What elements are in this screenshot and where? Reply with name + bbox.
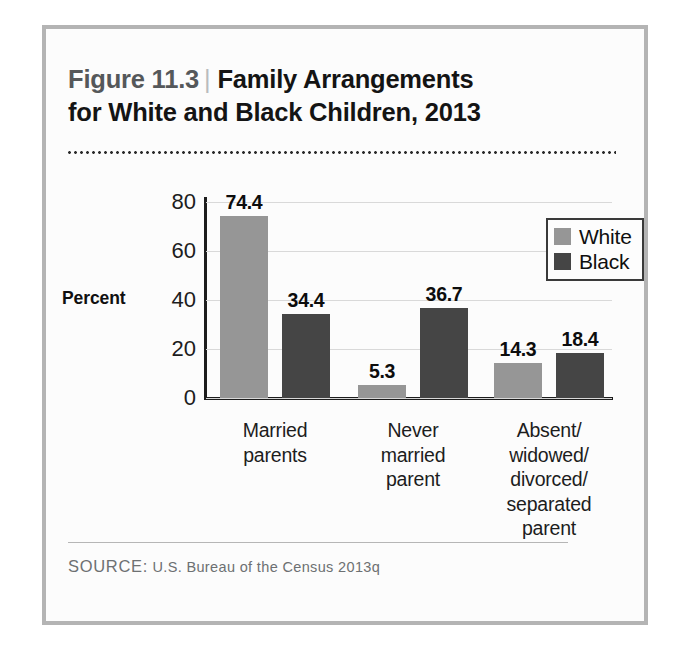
ytick-label-80: 80: [172, 191, 196, 213]
title-dotted-rule: [68, 151, 616, 154]
bar-never-white: 5.3: [358, 385, 406, 398]
legend-swatch-white-icon: [554, 228, 571, 245]
category-label-married: Married parents: [200, 418, 350, 467]
legend-label-black: Black: [579, 251, 629, 272]
source-divider: [68, 542, 568, 543]
ytick-label-40: 40: [172, 289, 196, 311]
ytick-label-20: 20: [172, 338, 196, 360]
y-axis-title: Percent: [62, 288, 126, 309]
category-absent-line-1: Absent/: [474, 418, 624, 443]
source-label: SOURCE:: [68, 557, 148, 575]
gridline-80: 80: [206, 202, 612, 203]
plot-area: 0 20 40 60 80 74.4 34.4 5.3: [206, 202, 612, 398]
category-married-line-1: Married: [200, 418, 350, 443]
bar-label-never-white: 5.3: [369, 360, 395, 383]
category-label-absent: Absent/ widowed/ divorced/ separated par…: [474, 418, 624, 541]
bar-absent-black: 18.4: [556, 353, 604, 398]
category-absent-line-3: divorced/: [474, 467, 624, 492]
category-absent-line-2: widowed/: [474, 443, 624, 468]
title-line-1: Figure 11.3|Family Arrangements: [68, 63, 618, 96]
ytick-label-60: 60: [172, 240, 196, 262]
gridline-0: 0: [206, 398, 612, 399]
bar-married-black: 34.4: [282, 314, 330, 398]
category-married-line-2: parents: [200, 443, 350, 468]
ytick-label-0: 0: [184, 387, 196, 409]
legend-item-white: White: [554, 224, 632, 249]
figure-title: Figure 11.3|Family Arrangements for Whit…: [68, 63, 618, 129]
bar-label-married-black: 34.4: [288, 289, 325, 312]
title-main-part-1: Family Arrangements: [217, 65, 473, 93]
legend-item-black: Black: [554, 249, 632, 274]
bar-label-absent-white: 14.3: [500, 338, 537, 361]
category-never-line-2: married: [338, 443, 488, 468]
title-separator: |: [199, 65, 217, 93]
bar-label-married-white: 74.4: [226, 191, 263, 214]
category-absent-line-4: separated: [474, 492, 624, 517]
category-label-never: Never married parent: [338, 418, 488, 492]
chart-legend: White Black: [546, 218, 644, 281]
legend-label-white: White: [579, 226, 632, 247]
bar-married-white: 74.4: [220, 216, 268, 398]
source-note: SOURCE: U.S. Bureau of the Census 2013q: [68, 557, 380, 576]
figure-frame: Figure 11.3|Family Arrangements for Whit…: [42, 25, 648, 625]
source-text: U.S. Bureau of the Census 2013q: [148, 559, 380, 575]
category-never-line-1: Never: [338, 418, 488, 443]
bar-chart: Percent 0 20 40 60 80 74.4: [46, 189, 644, 569]
bar-label-never-black: 36.7: [426, 283, 463, 306]
figure-number: Figure 11.3: [68, 65, 199, 93]
category-absent-line-5: parent: [474, 516, 624, 541]
title-line-2: for White and Black Children, 2013: [68, 96, 618, 129]
bar-label-absent-black: 18.4: [562, 328, 599, 351]
bar-never-black: 36.7: [420, 308, 468, 398]
category-never-line-3: parent: [338, 467, 488, 492]
bar-absent-white: 14.3: [494, 363, 542, 398]
legend-swatch-black-icon: [554, 253, 571, 270]
